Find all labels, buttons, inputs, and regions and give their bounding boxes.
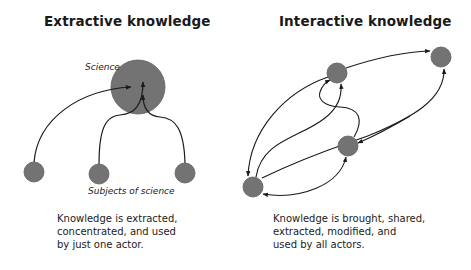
interactive-caption-line-3: used by all actors. — [273, 238, 425, 251]
extractive-diagram — [24, 60, 195, 184]
extractive-caption-line-1: Knowledge is extracted, — [57, 212, 177, 225]
extractive-caption-line-3: by just one actor. — [57, 238, 177, 251]
actor-node-b — [431, 47, 451, 67]
actor-node-a — [327, 63, 347, 83]
edge-d-c-bottom — [263, 157, 346, 195]
subjects-of-science-label: Subjects of science — [88, 186, 175, 196]
edge-c-to-a — [320, 80, 360, 137]
interactive-caption-line-2: extracted, modified, and — [273, 225, 425, 238]
interactive-caption-line-1: Knowledge is brought, shared, — [273, 212, 425, 225]
actor-node-d — [243, 177, 263, 197]
actor-node-c — [338, 136, 358, 156]
interactive-diagram — [243, 47, 451, 197]
science-label: Science — [85, 62, 120, 72]
subject-node-1 — [24, 162, 44, 182]
edge-d-to-a — [256, 84, 341, 177]
edge-a-to-d — [248, 77, 328, 176]
extractive-caption-line-2: concentrated, and used — [57, 225, 177, 238]
extractive-caption: Knowledge is extracted, concentrated, an… — [57, 212, 177, 251]
subject-node-2 — [89, 164, 109, 184]
interactive-caption: Knowledge is brought, shared, extracted,… — [273, 212, 425, 251]
edge-a-to-b — [346, 51, 430, 68]
edge-d-to-b — [262, 69, 444, 178]
subject-node-3 — [175, 163, 195, 183]
